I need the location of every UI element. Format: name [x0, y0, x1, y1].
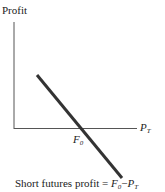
x-axis-label: PT — [140, 121, 151, 135]
y-axis-label: Profit — [2, 4, 27, 16]
caption: Short futures profit = F0−PT — [15, 177, 138, 191]
payoff-diagram — [0, 0, 165, 192]
short-futures-profit-line — [37, 75, 122, 178]
intercept-label: F0 — [73, 133, 83, 147]
